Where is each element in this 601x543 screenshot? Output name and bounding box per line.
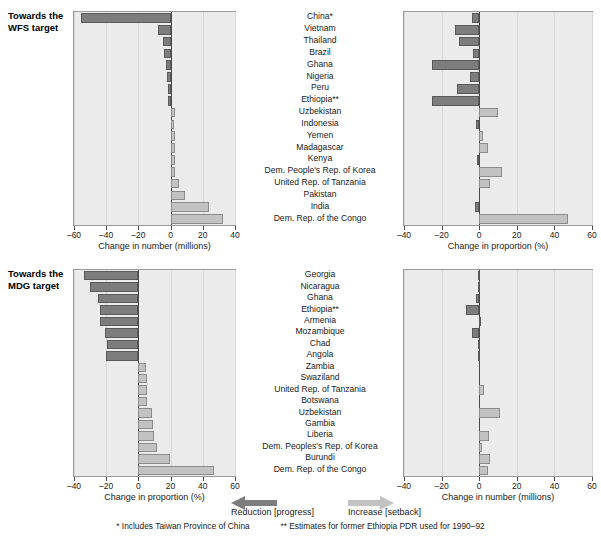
legend-label-reduction: Reduction [progress] bbox=[231, 507, 314, 517]
country-label: Kenya bbox=[244, 154, 396, 163]
bar bbox=[168, 96, 171, 106]
bar-slot bbox=[74, 130, 235, 142]
bar bbox=[138, 454, 169, 463]
chart-wfs-proportion-bars bbox=[404, 12, 592, 225]
country-label: Pakistan bbox=[244, 190, 396, 199]
bar-slot bbox=[404, 201, 592, 213]
bar-slot bbox=[74, 119, 235, 131]
bar bbox=[479, 431, 488, 440]
bar bbox=[455, 25, 479, 35]
axis-tick-label: 60 bbox=[230, 481, 239, 491]
country-label: Nigeria bbox=[244, 72, 396, 81]
bar bbox=[138, 385, 147, 394]
bar bbox=[171, 202, 210, 212]
country-label: Mozambique bbox=[244, 327, 396, 336]
country-label: Brazil bbox=[244, 48, 396, 57]
bar bbox=[478, 340, 480, 349]
bar bbox=[171, 143, 175, 153]
bar-slot bbox=[404, 154, 592, 166]
bar bbox=[81, 13, 170, 23]
axis-tick-label: 0 bbox=[168, 230, 173, 240]
country-label: Swaziland bbox=[244, 373, 396, 382]
gridline bbox=[235, 12, 236, 225]
bar bbox=[171, 191, 186, 201]
country-label: Dem. Rep. of the Congo bbox=[244, 214, 396, 223]
bar-slot bbox=[404, 190, 592, 202]
bar-slot bbox=[404, 107, 592, 119]
bar-slot bbox=[74, 373, 235, 384]
bar bbox=[167, 72, 170, 82]
bar bbox=[90, 282, 138, 291]
bar-slot bbox=[74, 142, 235, 154]
bar bbox=[138, 397, 147, 406]
bar-slot bbox=[74, 36, 235, 48]
bar bbox=[479, 317, 481, 326]
bar bbox=[479, 408, 500, 417]
country-label: Zambia bbox=[244, 362, 396, 371]
bar-slot bbox=[74, 178, 235, 190]
country-label: Uzbekistan bbox=[244, 107, 396, 116]
axis-tick-label: 20 bbox=[166, 481, 175, 491]
bar bbox=[98, 294, 138, 303]
country-label: Gambia bbox=[244, 419, 396, 428]
country-label: Peru bbox=[244, 83, 396, 92]
bar-slot bbox=[74, 107, 235, 119]
country-label: Thailand bbox=[244, 36, 396, 45]
bar-slot bbox=[74, 339, 235, 350]
bar bbox=[479, 179, 489, 189]
country-label: United Rep. of Tanzania bbox=[244, 178, 396, 187]
legend-item-increase: Increase [setback] bbox=[348, 496, 394, 510]
bar bbox=[472, 13, 480, 23]
bar-slot bbox=[404, 407, 592, 418]
chart-mdg-number-bars bbox=[404, 270, 592, 476]
bar bbox=[479, 466, 487, 475]
bar-slot bbox=[74, 465, 235, 476]
bar bbox=[100, 305, 139, 314]
country-label: Ghana bbox=[244, 60, 396, 69]
country-label: Armenia bbox=[244, 316, 396, 325]
bar-slot bbox=[74, 213, 235, 225]
bar bbox=[470, 72, 479, 82]
panel-wfs: Towards the WFS target Change in number … bbox=[0, 0, 601, 262]
bar bbox=[171, 167, 176, 177]
bar-slot bbox=[74, 24, 235, 36]
footnote-1: * Includes Taiwan Province of China bbox=[116, 521, 249, 531]
bar-slot bbox=[404, 12, 592, 24]
bar-slot bbox=[404, 59, 592, 71]
legend: Reduction [progress] Increase [setback] bbox=[0, 496, 601, 518]
bar bbox=[476, 294, 480, 303]
bar bbox=[171, 155, 175, 165]
bar-slot bbox=[404, 442, 592, 453]
bar-slot bbox=[404, 384, 592, 395]
axis-tick-label: 40 bbox=[198, 481, 207, 491]
bar bbox=[432, 96, 479, 106]
bar-slot bbox=[74, 12, 235, 24]
bar-slot bbox=[404, 327, 592, 338]
chart-wfs-number-bars bbox=[74, 12, 235, 225]
gridline bbox=[592, 12, 593, 225]
bar bbox=[100, 317, 139, 326]
bar-slot bbox=[404, 95, 592, 107]
bar bbox=[479, 454, 490, 463]
legend-label-increase: Increase [setback] bbox=[348, 507, 421, 517]
gridline bbox=[235, 270, 236, 476]
axis-tick-label: –40 bbox=[397, 230, 411, 240]
bar bbox=[164, 49, 171, 59]
bar bbox=[138, 374, 147, 383]
bar-slot bbox=[74, 270, 235, 281]
bar bbox=[138, 466, 214, 475]
bar bbox=[479, 443, 482, 452]
bar bbox=[171, 179, 180, 189]
axis-tick-label: 40 bbox=[230, 230, 239, 240]
bar bbox=[84, 271, 139, 280]
chart-wfs-proportion-xaxis: Change in proportion (%) –40–200204060 bbox=[403, 226, 593, 252]
bar bbox=[138, 363, 145, 372]
axis-tick-label: –20 bbox=[435, 481, 449, 491]
country-label: Ethiopia** bbox=[244, 305, 396, 314]
bar-slot bbox=[404, 119, 592, 131]
bar-slot bbox=[74, 154, 235, 166]
bar bbox=[158, 25, 171, 35]
bar-slot bbox=[74, 166, 235, 178]
bar-slot bbox=[404, 48, 592, 60]
country-label: Botswana bbox=[244, 396, 396, 405]
